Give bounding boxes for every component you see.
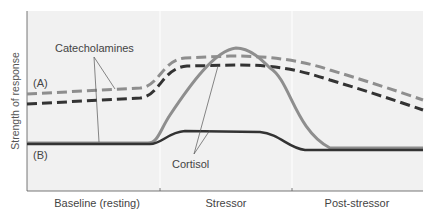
stress-response-chart: Catecholamines Cortisol (A) (B) Baseline… — [0, 0, 437, 216]
x-label-baseline: Baseline (resting) — [54, 197, 140, 209]
plot-area — [27, 11, 423, 191]
label-panel-b: (B) — [33, 149, 48, 161]
x-label-stressor: Stressor — [206, 197, 247, 209]
label-cortisol: Cortisol — [172, 158, 209, 170]
y-axis-label: Strength of response — [9, 52, 21, 150]
x-label-post-stressor: Post-stressor — [325, 197, 390, 209]
label-panel-a: (A) — [33, 77, 48, 89]
label-catecholamines: Catecholamines — [55, 42, 134, 54]
